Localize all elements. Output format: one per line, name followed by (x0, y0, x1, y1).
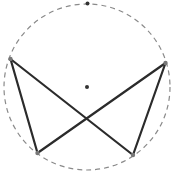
vertex-right (163, 61, 167, 65)
vertices-group (8, 57, 167, 157)
bowtie-circle-diagram (0, 0, 173, 184)
edge-left-to-bottom-right (11, 59, 134, 155)
edge-left-to-bottom-left (11, 59, 38, 153)
edge-right-to-bottom-right (133, 63, 166, 155)
center-point (85, 85, 89, 89)
vertex-bottom-left (35, 151, 39, 155)
vertex-bottom-right (131, 153, 135, 157)
vertex-left (8, 57, 12, 61)
edge-right-to-bottom-left (38, 63, 166, 153)
edges-group (11, 59, 166, 155)
top-point (86, 2, 90, 6)
